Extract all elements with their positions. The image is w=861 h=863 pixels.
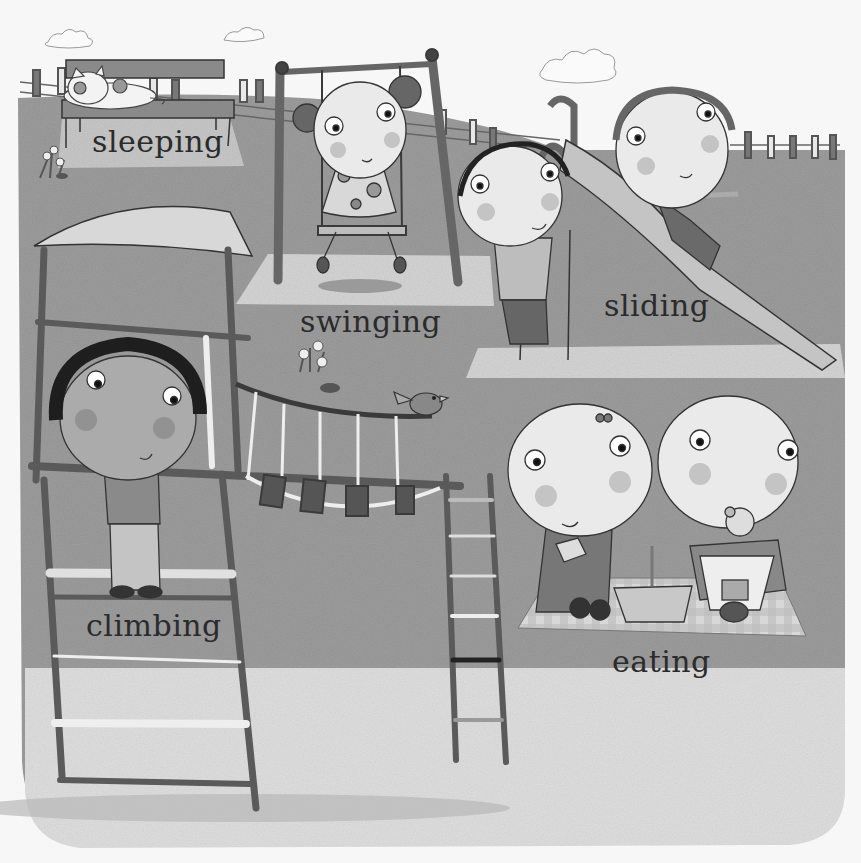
slide-patch [466,344,845,378]
label-climbing: climbing [86,608,222,643]
label-sleeping: sleeping [92,124,224,159]
label-sliding: sliding [604,288,709,323]
label-eating: eating [612,644,711,679]
teddy-bear [725,507,754,536]
label-swinging: swinging [300,304,441,339]
